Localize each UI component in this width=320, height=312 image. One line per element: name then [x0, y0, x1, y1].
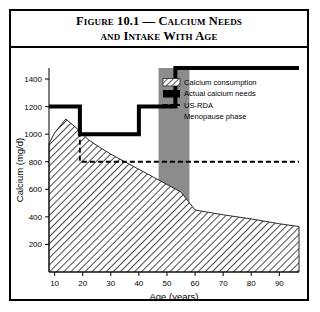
y-tick-label: 800 — [29, 158, 43, 167]
legend-item-label: Menopause phase — [184, 112, 247, 121]
figure-frame: Figure 10.1 — Calcium Needs and Intake W… — [9, 9, 309, 301]
figure-title-line-2: and Intake With Age — [100, 29, 217, 44]
x-tick-label: 70 — [219, 279, 228, 288]
legend-swatch-gray-fill-swatch — [163, 113, 180, 121]
figure-title: Figure 10.1 — Calcium Needs and Intake W… — [11, 11, 307, 48]
x-tick-label: 90 — [275, 279, 284, 288]
legend-item-label: US-RDA — [184, 101, 214, 110]
y-tick-label: 400 — [29, 213, 43, 222]
x-tick-label: 20 — [78, 279, 87, 288]
y-tick-label: 1200 — [24, 103, 42, 112]
x-tick-label: 40 — [134, 279, 143, 288]
y-tick-label: 600 — [29, 185, 43, 194]
plot-content — [49, 68, 299, 272]
legend-item-label: Actual calcium needs — [184, 89, 256, 98]
x-tick-label: 50 — [163, 279, 172, 288]
legend-swatch-black-bar-swatch — [163, 90, 180, 98]
y-tick-label: 1000 — [24, 130, 42, 139]
legend-swatch-hatched-swatch — [163, 79, 180, 87]
x-tick-label: 30 — [106, 279, 115, 288]
x-tick-label: 10 — [50, 279, 59, 288]
figure-title-line-1: Figure 10.1 — Calcium Needs — [76, 14, 242, 29]
y-tick-label: 1400 — [24, 75, 42, 84]
y-tick-label: 200 — [29, 240, 43, 249]
y-axis-title: Calcium (mg/d) — [14, 138, 25, 202]
calcium-chart: 2004006008001000120014001020304050607080… — [11, 48, 307, 299]
x-axis-title: Age (years) — [149, 291, 198, 299]
x-tick-label: 60 — [191, 279, 200, 288]
legend-item-label: Calcium consumption — [184, 78, 257, 87]
chart-plot-region: 2004006008001000120014001020304050607080… — [11, 48, 307, 299]
x-tick-label: 80 — [247, 279, 256, 288]
